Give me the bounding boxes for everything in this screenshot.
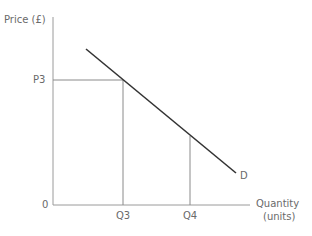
curve-label-d: D bbox=[240, 170, 248, 182]
x-tick-q4: Q4 bbox=[183, 210, 197, 222]
x-tick-q3: Q3 bbox=[116, 210, 130, 222]
x-axis-label-line1: Quantity bbox=[256, 198, 299, 210]
y-tick-p3: P3 bbox=[33, 74, 45, 86]
x-axis-label-line2: (units) bbox=[263, 211, 295, 223]
y-axis-label: Price (£) bbox=[4, 14, 46, 26]
demand-curve bbox=[86, 49, 236, 173]
origin-label: 0 bbox=[42, 199, 48, 211]
